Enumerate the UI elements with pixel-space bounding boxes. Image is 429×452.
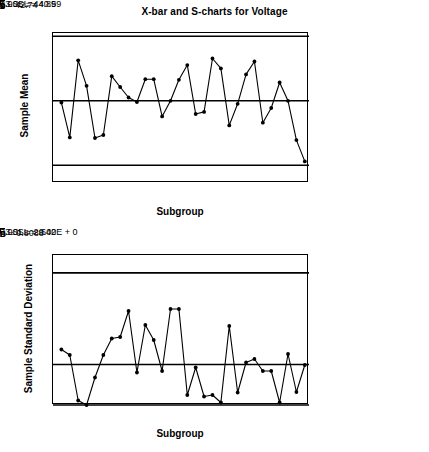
- xbar-x-axis-title: Subgroup: [52, 206, 308, 217]
- xbar-chart-block: X-bar and S-charts for Voltage Sample Me…: [0, 0, 429, 230]
- xbar-lcl-label: −3.0SL = 40.59: [0, 0, 61, 9]
- s-y-axis-title: Sample Standard Deviation: [23, 239, 34, 419]
- s-x-axis-title: Subgroup: [52, 428, 308, 439]
- s-chart-block: Sample Standard Deviation 0123 0102030 3…: [0, 228, 429, 452]
- xbar-series-line: [53, 33, 309, 183]
- xbar-y-axis-title: Sample Mean: [19, 46, 30, 166]
- s-plot-area: [52, 254, 308, 404]
- s-lcl-label: −3.0SL = 0.00E + 0: [0, 228, 77, 237]
- xbar-plot-area: [52, 32, 308, 182]
- s-series-line: [53, 255, 309, 405]
- page-title: X-bar and S-charts for Voltage: [0, 6, 429, 17]
- xbar-violation-marker: 1: [0, 0, 5, 10]
